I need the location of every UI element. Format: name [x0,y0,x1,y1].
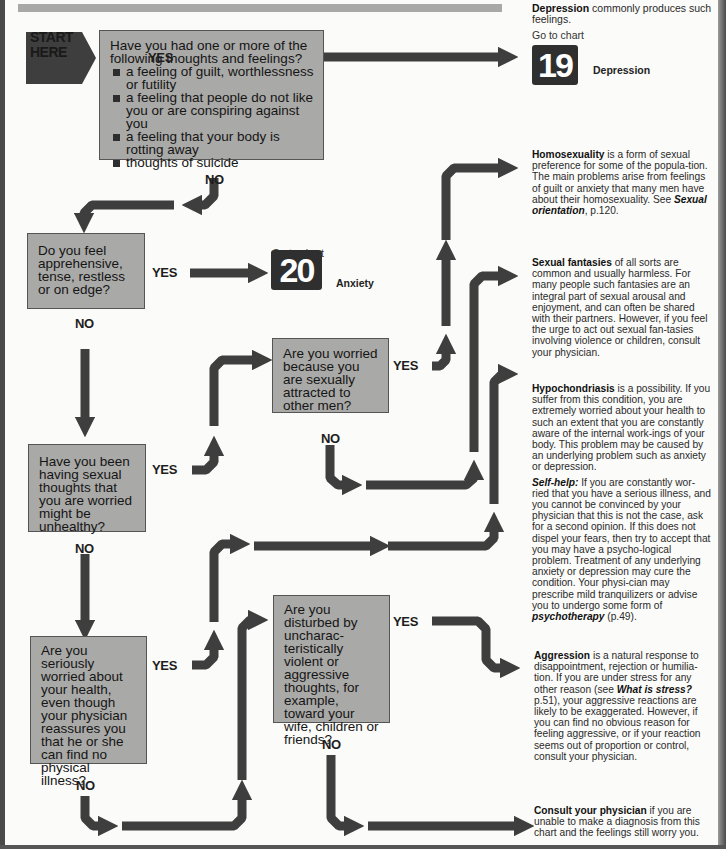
self-help-title: Self-help: [532,477,578,488]
yes-label-q4: YES [152,462,177,477]
yes-text: YES [393,358,418,373]
goto-chart-19-label: Go to chart [532,29,584,41]
question-box-6: Are you seriously worried about your hea… [30,636,147,764]
outcome-text-continued: p.51), your aggressive reactions are lik… [534,695,700,762]
outcome-homosexuality: Homosexuality is a form of sexual prefer… [532,149,710,216]
outcome-aggression: Aggression is a natural response to disa… [534,650,712,762]
no-label-q4: NO [75,541,94,556]
question-box-2: Do you feel apprehensive, tense, restles… [27,233,145,309]
chart-name-text: Depression [593,64,650,76]
chart-19-badge[interactable]: 19 [532,45,578,85]
outcome-title: Sexual fantasies [532,257,612,268]
no-label-q6: NO [76,778,95,793]
chart-name-text: Anxiety [336,277,374,289]
chart-20-badge[interactable]: 20 [271,250,322,290]
chart-19-name: Depression [593,64,650,76]
no-text: NO [75,316,94,331]
outcome-title: Hypochondriasis [532,383,615,394]
question-box-4: Have you been having sexual thoughts tha… [28,444,146,532]
start-here-label: START HERE [30,30,73,60]
no-text: NO [205,172,224,187]
yes-text: YES [152,658,177,673]
question-4-text: Have you been having sexual thoughts tha… [39,455,137,533]
outcome-text: of all sorts are common and usually harm… [532,257,708,358]
self-help-text: If you are constantly wor-ried that you … [532,477,711,611]
cross-reference-link[interactable]: What is stress? [617,684,692,695]
yes-text: YES [393,614,418,629]
outcome-page-ref: (p.49). [604,611,636,622]
bullet-item: thoughts of suicide [110,156,315,169]
no-label-q1: NO [205,172,224,187]
question-box-5: Are you disturbed by uncharac-teristical… [273,595,390,723]
question-1-intro: Have you had one or more of the followin… [110,39,315,65]
outcome-depression: Depression commonly produces such feelin… [532,3,712,25]
cross-reference-link[interactable]: psychotherapy [532,611,604,622]
question-box-1: Have you had one or more of the followin… [99,30,324,160]
bullet-item: a feeling that people do not like you or… [110,91,315,130]
no-text: NO [322,737,341,752]
yes-label-q1: YES [148,50,173,65]
outcome-title: Homosexuality [532,149,604,160]
start-line-2: HERE [30,45,73,60]
yes-label-q6: YES [152,658,177,673]
yes-label-q2: YES [152,265,177,280]
outcome-sexual-fantasies: Sexual fantasies of all sorts are common… [532,257,710,358]
yes-text: YES [148,50,173,65]
bullet-item: a feeling that your body is rotting away [110,130,315,156]
chart-20-name: Anxiety [336,277,374,289]
chart-number: 20 [280,251,314,290]
yes-text: YES [152,462,177,477]
yes-label-q5: YES [393,614,418,629]
outcome-title: Depression [532,2,589,14]
question-1-bullets: a feeling of guilt, worthlessness or fut… [110,65,315,169]
question-box-3: Are you worried because you are sexually… [272,338,389,413]
outcome-title: Consult your physician [534,805,647,816]
no-text: NO [76,778,95,793]
bullet-item: a feeling of guilt, worthlessness or fut… [110,65,315,91]
no-label-q2: NO [75,316,94,331]
outcome-consult-physician: Consult your physician if you are unable… [534,805,714,839]
question-2-text: Do you feel apprehensive, tense, restles… [38,244,136,296]
hypochondriasis-paragraph: Hypochondriasis is a possibility. If you… [532,383,712,473]
start-line-1: START [30,30,73,45]
yes-label-q3: YES [393,358,418,373]
goto-text: Go to chart [532,29,584,41]
question-6-text: Are you seriously worried about your hea… [41,644,138,787]
no-label-q3: NO [321,431,340,446]
outcome-page-ref: , p.120. [585,205,619,216]
yes-text: YES [152,265,177,280]
self-help-paragraph: Self-help: If you are constantly wor-rie… [532,477,712,623]
outcome-text: is a possibility. If you suffer from thi… [532,383,710,472]
chart-number: 19 [538,46,572,85]
no-text: NO [75,541,94,556]
no-text: NO [321,431,340,446]
question-5-text: Are you disturbed by uncharac-teristical… [284,603,381,746]
outcome-title: Aggression [534,650,590,661]
outcome-hypochondriasis: Hypochondriasis is a possibility. If you… [532,383,712,622]
question-3-text: Are you worried because you are sexually… [283,347,380,412]
no-label-q5: NO [322,737,341,752]
